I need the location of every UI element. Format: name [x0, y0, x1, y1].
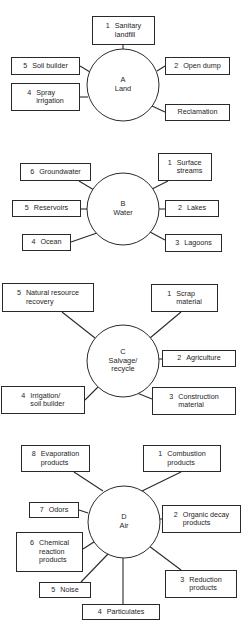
node-label: Evaporation products — [41, 450, 79, 467]
hub-label: CSalvage/ recycle — [109, 348, 138, 374]
node-box: 6Chemical reaction products — [16, 532, 83, 572]
node-number: 3 — [175, 239, 179, 247]
node-box: 6Groundwater — [20, 163, 91, 181]
node-number: 2 — [174, 511, 178, 519]
node-box: 8Evaporation products — [21, 445, 90, 472]
node-label: Scrap material — [176, 290, 202, 307]
node-box: 3Reduction products — [165, 570, 237, 598]
node-number: 4 — [21, 392, 25, 400]
node-box: 1Surface streams — [158, 153, 212, 181]
node-box: 3Construction material — [152, 387, 236, 415]
hub-label: ALand — [115, 76, 131, 93]
node-number: 4 — [27, 89, 31, 97]
connector-line — [85, 387, 98, 400]
node-number: 7 — [40, 506, 44, 514]
node-label: Natural resource recovery — [26, 289, 79, 306]
node-label: Agriculture — [186, 354, 220, 362]
node-box: 5Natural resource recovery — [2, 283, 94, 312]
node-number: 5 — [23, 62, 27, 70]
node-box: 1Sanitary landfill — [92, 16, 155, 45]
node-label: Ocean — [40, 238, 61, 246]
node-label: Combustion products — [167, 450, 205, 467]
node-box: 2Organic decay products — [162, 505, 241, 533]
node-box: 2Open dump — [165, 57, 230, 75]
node-number: 5 — [17, 289, 21, 297]
node-box: 1Combustion products — [143, 445, 221, 472]
node-label: Reservoirs — [34, 204, 68, 212]
node-box: 5Noise — [39, 582, 91, 598]
node-box: 4Particulates — [82, 604, 160, 620]
node-box: 4Ocean — [22, 234, 71, 251]
node-number: 1 — [168, 159, 172, 167]
connector-line — [150, 232, 165, 240]
node-label: Soil builder — [32, 62, 68, 70]
node-number: 8 — [32, 450, 36, 458]
node-label: Spray irrigation — [36, 89, 64, 106]
node-box: 3Lagoons — [165, 234, 222, 252]
node-box: 2Agriculture — [162, 350, 236, 367]
hub-label: DAir — [119, 513, 128, 530]
node-number: 6 — [30, 168, 34, 176]
connector-line — [79, 181, 94, 190]
node-label: Surface streams — [177, 159, 203, 176]
node-label: Odors — [49, 506, 69, 514]
node-number: 5 — [51, 586, 55, 594]
node-number: 3 — [180, 576, 184, 584]
hub-name: Air — [119, 522, 128, 531]
node-number: 1 — [106, 22, 110, 30]
node-box: 7Odors — [29, 502, 79, 518]
node-label: Organic decay products — [183, 511, 229, 528]
connector-line — [152, 106, 165, 112]
node-label: Construction material — [178, 393, 218, 410]
connector-line — [79, 510, 88, 513]
node-label: Noise — [60, 586, 78, 594]
node-label: Lagoons — [184, 239, 212, 247]
node-label: Groundwater — [39, 168, 81, 176]
hub-label: BWater — [113, 200, 132, 217]
connector-line — [150, 312, 181, 338]
node-number: 4 — [31, 238, 35, 246]
connector-line — [81, 554, 108, 582]
node-box: 2Lakes — [165, 200, 219, 217]
connector-line — [137, 393, 152, 399]
node-number: 2 — [174, 62, 178, 70]
node-label: Sanitary landfill — [115, 22, 141, 39]
connector-line — [71, 233, 97, 242]
connector-line — [149, 546, 181, 570]
node-label: Open dump — [183, 62, 221, 70]
node-number: 5 — [25, 204, 29, 212]
node-box: 1Scrap material — [151, 284, 218, 312]
hub-name: Water — [113, 209, 132, 218]
connector-line — [62, 312, 95, 338]
node-label: Irrigation/ soil builder — [30, 392, 64, 409]
hub-name: Land — [115, 85, 131, 94]
connector-line — [157, 66, 165, 71]
node-box: 5Soil builder — [11, 57, 80, 75]
node-label: Particulates — [107, 608, 145, 616]
connector-line — [80, 66, 90, 72]
node-box: Reclamation — [165, 104, 230, 121]
node-number: 2 — [177, 354, 181, 362]
node-box: 4Spray irrigation — [11, 83, 80, 111]
node-label: Chemical reaction products — [39, 539, 69, 564]
node-number: 3 — [169, 393, 173, 401]
node-label: Reduction products — [189, 576, 221, 593]
connector-line — [152, 181, 168, 189]
node-number: 2 — [178, 204, 182, 212]
node-number: 1 — [167, 290, 171, 298]
connector-line — [142, 472, 181, 491]
node-label: Lakes — [187, 204, 206, 212]
node-box: 5Reservoirs — [12, 200, 81, 217]
node-label: Reclamation — [178, 108, 218, 116]
node-number: 6 — [30, 539, 34, 547]
hub-name: Salvage/ recycle — [109, 357, 138, 374]
node-number: 4 — [98, 608, 102, 616]
connector-line — [74, 472, 103, 491]
node-box: 4Irrigation/ soil builder — [1, 386, 85, 414]
node-number: 1 — [158, 450, 162, 458]
